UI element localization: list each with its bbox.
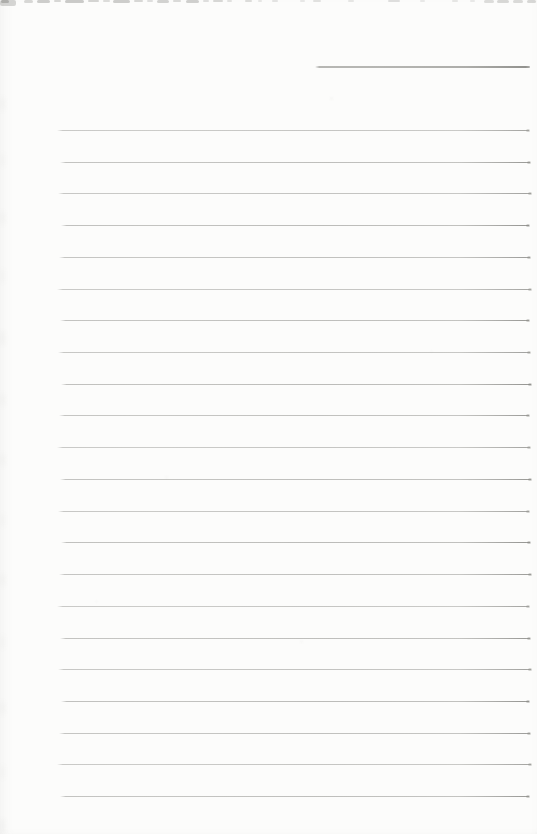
scan-artifact-smudge <box>0 572 5 588</box>
scan-artifact-speck <box>430 350 433 353</box>
scan-artifact-speck <box>330 97 333 100</box>
notebook-page <box>0 0 537 834</box>
scan-artifact-smudge <box>0 330 5 346</box>
scan-artifact-specks <box>0 0 537 834</box>
scan-artifact-dash <box>497 0 509 3</box>
scan-artifact-smudge <box>0 392 5 408</box>
scan-artifact-dash <box>527 0 536 3</box>
ruled-line <box>60 479 531 480</box>
scan-artifact-smudge <box>0 152 5 168</box>
scan-artifact-dash <box>258 0 262 2</box>
ruled-line <box>60 638 530 639</box>
ruled-line <box>60 796 529 797</box>
scan-artifact-dash <box>37 0 50 3</box>
scan-artifact-smudge <box>0 210 5 226</box>
ruled-line <box>57 289 531 290</box>
ruled-line <box>59 257 530 258</box>
scan-artifact-dash <box>348 0 354 2</box>
ruled-line <box>60 320 529 321</box>
ruled-line <box>58 352 530 353</box>
ruled-line <box>61 701 529 702</box>
ruled-line <box>57 447 530 448</box>
scan-artifact-dash <box>147 0 153 2</box>
scan-artifact-smudge <box>0 634 5 650</box>
scan-artifact-speck <box>165 476 168 479</box>
scan-artifact-dash <box>103 0 110 2</box>
scan-artifact-dash <box>513 0 523 3</box>
scan-artifact-dash <box>113 0 130 3</box>
scan-artifact-dash <box>54 0 61 2</box>
ruled-line <box>58 193 531 194</box>
ruled-line <box>58 669 531 670</box>
scan-artifact-dash <box>470 0 475 2</box>
scan-artifact-speck <box>95 600 98 603</box>
ruled-line <box>59 574 531 575</box>
scan-artifact-dash <box>203 0 209 2</box>
scan-artifact-smudge <box>0 268 5 284</box>
ruled-line <box>59 733 530 734</box>
ruled-line <box>61 225 529 226</box>
ruled-line <box>57 130 529 131</box>
scan-artifact-dash <box>0 0 16 6</box>
ruled-line <box>57 764 531 765</box>
scan-artifact-dash <box>173 0 181 2</box>
scan-artifact-top-edge <box>0 0 537 834</box>
scan-artifact-dash <box>420 0 425 2</box>
scan-artifact-dash <box>272 0 278 2</box>
scan-artifact-dash <box>24 0 33 3</box>
scan-artifact-dash <box>186 0 199 3</box>
scan-artifact-dash <box>300 0 305 2</box>
scan-artifact-dash <box>1 0 9 3</box>
scan-artifact-smudge <box>0 700 5 716</box>
ruled-line <box>58 511 529 512</box>
scan-artifact-dash <box>313 0 321 2</box>
scan-artifact-dash <box>65 0 84 3</box>
ruled-line <box>57 606 529 607</box>
ruled-line <box>61 384 531 385</box>
scan-artifact-dash <box>157 0 169 3</box>
scan-artifact-dash <box>452 0 458 2</box>
scan-artifact-smudge <box>0 818 5 834</box>
scan-artifact-dash <box>388 0 400 2</box>
ruled-line <box>60 162 530 163</box>
scan-artifact-smudge <box>0 96 5 112</box>
scan-artifact-smudge <box>0 764 5 780</box>
scan-artifact-speck <box>300 640 303 643</box>
scan-artifact-smudge <box>0 452 5 468</box>
scan-artifact-dash <box>88 0 99 2</box>
scan-artifact-left-edge-smudges <box>0 0 537 834</box>
header-rule-line <box>315 66 530 68</box>
ruled-line <box>61 542 530 543</box>
scan-artifact-smudge <box>0 512 5 528</box>
scan-artifact-dash <box>213 0 223 2</box>
scan-artifact-dash <box>227 0 232 2</box>
scan-artifact-dash <box>245 0 252 2</box>
scan-artifact-dash <box>134 0 143 2</box>
ruled-lines <box>0 0 537 834</box>
scan-artifact-dash <box>484 0 494 3</box>
ruled-line <box>59 415 529 416</box>
